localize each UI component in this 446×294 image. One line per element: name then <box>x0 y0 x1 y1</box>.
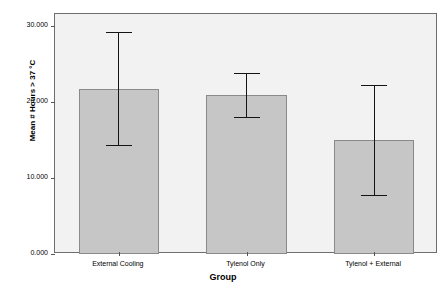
x-tick-mark <box>374 252 375 256</box>
error-bar-tylenol-only <box>234 73 260 118</box>
error-bar-cap-upper <box>234 73 260 74</box>
error-bar-whisker <box>118 32 119 146</box>
x-tick-mark <box>119 252 120 256</box>
error-bar-cap-upper <box>106 32 132 33</box>
error-bar-external-cooling <box>106 32 132 146</box>
x-tick-label-tylenol-external: Tylenol + External <box>313 260 433 267</box>
x-tick-mark <box>247 252 248 256</box>
plot-area: 0.000 10.000 20.000 30.000 <box>54 13 437 253</box>
bar-chart: Mean # Hours > 37 °C Group 0.000 10.000 … <box>0 0 446 294</box>
y-tick-label: 20.000 <box>27 97 48 104</box>
error-bar-cap-upper <box>361 85 387 86</box>
x-tick-label-tylenol-only: Tylenol Only <box>186 260 306 267</box>
y-tick-label: 0.000 <box>30 249 48 256</box>
error-bar-whisker <box>374 85 375 195</box>
error-bar-cap-lower <box>106 145 132 146</box>
y-tick-mark <box>51 26 55 27</box>
bar-tylenol-only <box>206 95 286 254</box>
error-bar-whisker <box>246 73 247 118</box>
error-bar-tylenol-external <box>361 85 387 195</box>
y-tick-mark <box>51 178 55 179</box>
x-axis-title: Group <box>0 272 446 282</box>
y-tick-label: 10.000 <box>27 173 48 180</box>
y-tick-mark <box>51 102 55 103</box>
error-bar-cap-lower <box>234 117 260 118</box>
x-tick-label-external-cooling: External Cooling <box>58 260 178 267</box>
y-tick-mark <box>51 254 55 255</box>
error-bar-cap-lower <box>361 195 387 196</box>
y-tick-label: 30.000 <box>27 21 48 28</box>
